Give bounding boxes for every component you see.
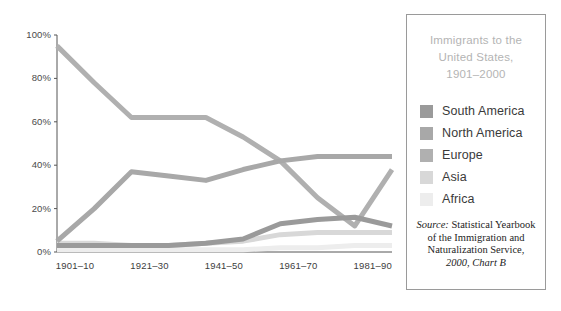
legend-swatch-icon bbox=[420, 127, 433, 140]
legend-swatch-icon bbox=[420, 105, 433, 118]
x-axis-tick-label: 1961–70 bbox=[263, 260, 333, 271]
y-axis-tick-label: 20% bbox=[15, 203, 51, 214]
y-axis-tick-label: 60% bbox=[15, 116, 51, 127]
legend-item-label: North America bbox=[442, 126, 523, 140]
chart-plot-panel: 0%20%40%60%80%100%1901–101921–301941–501… bbox=[0, 0, 400, 311]
source-line-2: of the Immigration and bbox=[427, 232, 524, 243]
x-axis-tick-label: 1901–10 bbox=[40, 260, 110, 271]
legend-item: North America bbox=[420, 122, 545, 144]
legend-title: Immigrants to the United States, 1901–20… bbox=[407, 32, 545, 83]
legend-item: Asia bbox=[420, 166, 545, 188]
y-axis-tick-label: 0% bbox=[15, 246, 51, 257]
legend-source-note: Source: Statistical Yearbook of the Immi… bbox=[407, 219, 545, 269]
source-label: Source: bbox=[417, 219, 449, 230]
source-line-4: 2000, Chart B bbox=[446, 257, 506, 268]
x-axis-tick-label: 1941–50 bbox=[189, 260, 259, 271]
legend-item-label: Africa bbox=[442, 192, 475, 206]
source-line-3: Naturalization Service, bbox=[428, 244, 525, 255]
legend-item-label: Asia bbox=[442, 170, 467, 184]
y-axis-tick-label: 100% bbox=[15, 29, 51, 40]
legend-swatch-icon bbox=[420, 193, 433, 206]
x-axis-tick-label: 1981–90 bbox=[338, 260, 408, 271]
legend-item: Africa bbox=[420, 188, 545, 210]
legend-swatch-icon bbox=[420, 171, 433, 184]
legend-item: Europe bbox=[420, 144, 545, 166]
legend-panel: Immigrants to the United States, 1901–20… bbox=[406, 14, 546, 290]
legend-swatch-icon bbox=[420, 149, 433, 162]
legend-items: South AmericaNorth AmericaEuropeAsiaAfri… bbox=[407, 100, 545, 210]
legend-item-label: South America bbox=[442, 104, 525, 118]
source-line-1: Statistical Yearbook bbox=[449, 219, 536, 230]
y-axis-tick-label: 80% bbox=[15, 72, 51, 83]
y-axis-tick-label: 40% bbox=[15, 159, 51, 170]
series-line-north-america bbox=[57, 157, 392, 242]
legend-title-line-3: 1901–2000 bbox=[415, 66, 537, 83]
chart-screenshot: 0%20%40%60%80%100%1901–101921–301941–501… bbox=[0, 0, 561, 311]
legend-item: South America bbox=[420, 100, 545, 122]
legend-title-line-2: United States, bbox=[415, 49, 537, 66]
legend-title-line-1: Immigrants to the bbox=[415, 32, 537, 49]
legend-item-label: Europe bbox=[442, 148, 483, 162]
x-axis-tick-label: 1921–30 bbox=[114, 260, 184, 271]
